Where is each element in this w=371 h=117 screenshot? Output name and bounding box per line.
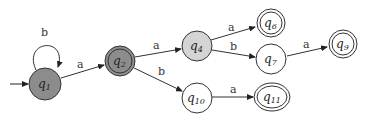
state-q2: q2: [105, 46, 135, 76]
state-q9: q9: [329, 30, 357, 58]
state-q10: q10: [182, 83, 212, 113]
edge-label: a: [303, 38, 310, 51]
diagram-canvas: b a a b a b a a q1 q2 q4 q6 q7: [0, 0, 371, 117]
automaton-diagram: b a a b a b a a q1 q2 q4 q6 q7: [0, 0, 371, 117]
edge-q1-q1: [33, 46, 59, 70]
state-q6: q6: [257, 9, 285, 37]
state-q11: q11: [254, 83, 290, 111]
edge-label: b: [230, 40, 237, 53]
state-q4: q4: [182, 31, 212, 61]
edge-label: a: [77, 58, 84, 71]
edge-label: a: [153, 39, 160, 52]
edge-label: b: [158, 65, 165, 78]
edge-label: a: [230, 83, 237, 96]
state-q7: q7: [256, 44, 286, 74]
state-q1: q1: [29, 68, 61, 100]
edge-label: a: [228, 21, 235, 34]
edge-label: b: [41, 26, 48, 39]
